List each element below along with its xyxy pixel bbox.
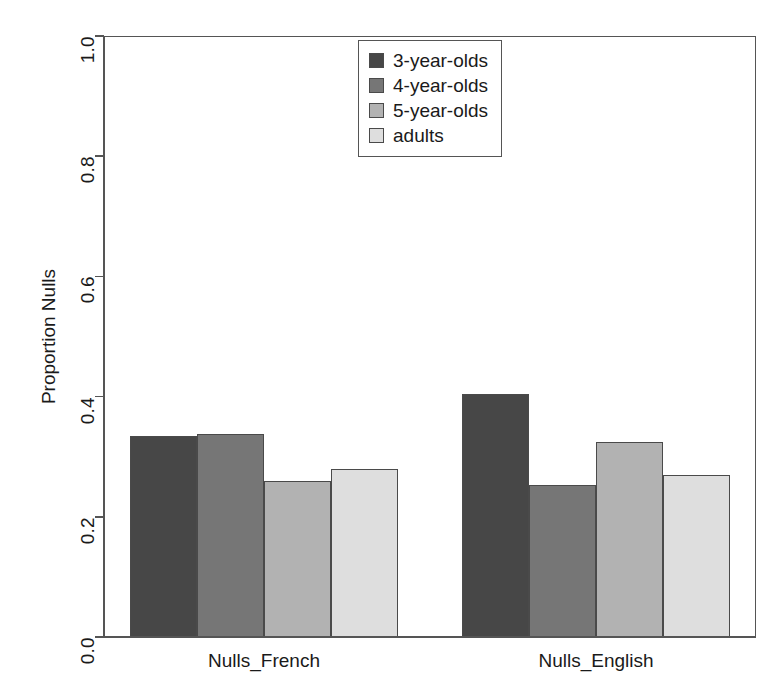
y-axis-tick-label: 0.6: [77, 276, 99, 303]
bar-chart: 0.00.20.40.60.81.0 Proportion Nulls Null…: [0, 0, 784, 697]
legend-swatch-icon: [369, 103, 384, 118]
legend: 3-year-olds4-year-olds5-year-oldsadults: [358, 40, 502, 157]
y-axis-tick-label: 0.0: [77, 637, 99, 664]
bar: [529, 485, 596, 637]
y-axis-title: Proportion Nulls: [34, 36, 64, 637]
bar: [264, 481, 331, 637]
x-axis-group-label: Nulls_English: [538, 650, 653, 672]
legend-item-label: adults: [393, 126, 444, 145]
legend-item: 3-year-olds: [369, 48, 488, 73]
bar: [331, 469, 398, 637]
bar: [596, 442, 663, 637]
y-axis-tick-label: 0.4: [77, 397, 99, 424]
y-axis-tick-label: 1.0: [77, 36, 99, 63]
x-axis-group-label: Nulls_French: [208, 650, 320, 672]
legend-item-label: 4-year-olds: [393, 76, 488, 95]
bar: [130, 436, 197, 637]
y-axis-tick-label: 0.2: [77, 517, 99, 544]
legend-item-label: 5-year-olds: [393, 101, 488, 120]
bar: [197, 434, 264, 637]
bar: [663, 475, 730, 637]
x-axis-line: [104, 636, 756, 638]
legend-item: adults: [369, 123, 488, 148]
bar: [462, 394, 529, 637]
legend-swatch-icon: [369, 128, 384, 143]
legend-swatch-icon: [369, 53, 384, 68]
legend-item: 4-year-olds: [369, 73, 488, 98]
y-axis-line: [103, 36, 105, 637]
legend-swatch-icon: [369, 78, 384, 93]
legend-item-label: 3-year-olds: [393, 51, 488, 70]
y-axis-tick-label: 0.8: [77, 156, 99, 183]
legend-item: 5-year-olds: [369, 98, 488, 123]
